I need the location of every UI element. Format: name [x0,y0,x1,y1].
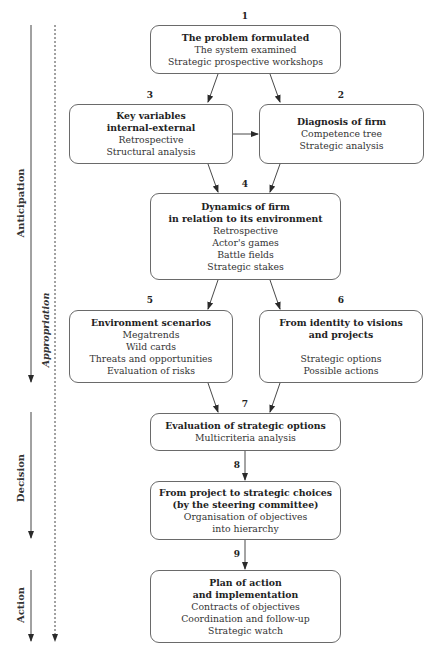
step-item: Possible actions [303,365,378,377]
step-number-6: 6 [338,295,344,305]
step-box-evaluation-strategic-options: Evaluation of strategic options Multicri… [150,413,341,451]
edge-1-3 [208,74,218,102]
step-item: Strategic analysis [299,140,383,152]
phase-label-appropriation: Appropriation [40,293,51,368]
step-box-key-variables: Key variables internal-external Retrospe… [69,104,233,164]
step-item: Actor's games [212,237,279,249]
step-title: The problem formulated [182,32,309,44]
step-item: Retrospective [213,225,278,237]
step-number-9: 9 [234,549,240,559]
step-box-diagnosis-of-firm: Diagnosis of firm Competence tree Strate… [259,104,424,164]
step-item: into hierarchy [212,523,279,535]
step-title: Diagnosis of firm [297,116,386,128]
edge-5-7 [208,383,218,412]
step-item: Megatrends [123,329,180,341]
phase-label-anticipation: Anticipation [15,168,26,237]
step-title: From identity to visions and projects [279,317,403,341]
step-item: Wild cards [126,341,176,353]
edge-1-2 [270,74,280,102]
phase-label-decision: Decision [15,454,26,502]
step-number-2: 2 [338,90,344,100]
step-title: From project to strategic choices (by th… [159,487,332,511]
step-item: Strategic stakes [207,261,283,273]
step-item: Strategic watch [208,625,283,637]
step-box-identity-to-visions: From identity to visions and projects St… [259,310,423,383]
step-number-1: 1 [242,11,248,21]
step-title: Dynamics of firm in relation to its envi… [168,201,322,225]
step-box-dynamics-of-firm: Dynamics of firm in relation to its envi… [150,193,341,280]
step-item: Retrospective [118,134,183,146]
step-item: Contracts of objectives [191,601,299,613]
step-box-project-to-choices: From project to strategic choices (by th… [150,481,341,540]
step-item: Organisation of objectives [184,511,307,523]
edge-2-4 [270,164,280,192]
step-box-problem-formulated: The problem formulated The system examin… [150,25,341,74]
step-item: Coordination and follow-up [181,613,310,625]
step-title: Evaluation of strategic options [165,420,326,432]
step-item: Strategic options [300,353,381,365]
step-item: Battle fields [217,249,274,261]
step-item: Strategic prospective workshops [168,56,323,68]
step-title: Plan of action and implementation [193,577,298,601]
step-item: Structural analysis [106,146,195,158]
step-box-environment-scenarios: Environment scenarios Megatrends Wild ca… [69,310,233,383]
step-number-3: 3 [147,90,153,100]
phase-label-action: Action [15,587,26,623]
edge-4-6 [270,280,280,309]
edge-6-7 [270,383,280,412]
step-number-5: 5 [147,295,153,305]
edge-4-5 [208,280,218,309]
step-title: Key variables internal-external [107,110,195,134]
step-box-plan-of-action: Plan of action and implementation Contra… [150,570,341,643]
step-item: Threats and opportunities [90,353,213,365]
step-item: Competence tree [301,128,382,140]
edge-3-4 [208,164,218,192]
step-item: The system examined [195,44,297,56]
step-number-7: 7 [242,399,248,409]
step-number-8: 8 [234,460,240,470]
step-item: Multicriteria analysis [195,432,296,444]
step-title: Environment scenarios [91,317,211,329]
step-number-4: 4 [242,179,248,189]
step-item: Evaluation of risks [107,365,195,377]
